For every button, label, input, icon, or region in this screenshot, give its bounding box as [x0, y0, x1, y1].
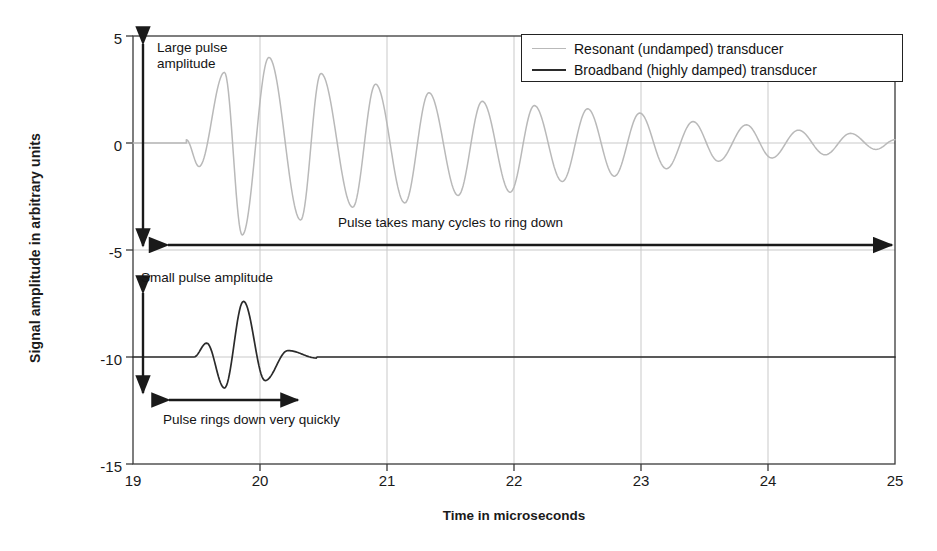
legend-item-broadband: Broadband (highly damped) transducer — [528, 59, 896, 80]
annotation-large-pulse-amplitude: Large pulseamplitude — [157, 40, 287, 73]
legend-label-broadband: Broadband (highly damped) transducer — [574, 62, 817, 78]
x-tick-marks — [260, 464, 768, 471]
legend-swatch-resonant-icon — [532, 48, 566, 49]
legend-item-resonant: Resonant (undamped) transducer — [528, 38, 896, 59]
legend-label-resonant: Resonant (undamped) transducer — [574, 41, 783, 57]
annotation-small-pulse-amplitude: Small pulse amplitude — [141, 270, 401, 286]
annotation-large-pulse-line1: Large pulse — [157, 40, 228, 55]
y-tick-marks — [126, 36, 133, 464]
annotation-large-pulse-line2: amplitude — [157, 56, 216, 71]
chart-figure: Signal amplitude in arbitrary units 5 0 … — [0, 0, 937, 551]
annotation-many-cycles: Pulse takes many cycles to ring down — [338, 215, 738, 231]
legend-swatch-broadband-icon — [532, 69, 566, 71]
legend: Resonant (undamped) transducer Broadband… — [521, 34, 903, 82]
annotation-rings-down: Pulse rings down very quickly — [163, 412, 463, 428]
